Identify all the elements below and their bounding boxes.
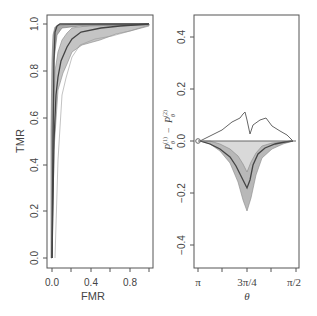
left-roc-plot: 0.0 0.2 0.4 0.6 0.8 1.0 TMR 0.0 0.4 0.8 …: [14, 15, 153, 302]
right-ytick-3: 0.2: [176, 82, 187, 96]
left-xtick-2: 0.8: [123, 277, 137, 288]
right-xtick-2: π/2: [287, 276, 301, 288]
svg-text:(2): (2): [162, 110, 169, 117]
svg-text:−: −: [163, 127, 174, 133]
left-xlabel: FMR: [81, 290, 105, 302]
roc-band-b: [52, 24, 149, 258]
right-ytick-2: 0.0: [176, 134, 187, 148]
left-ytick-2: 0.4: [29, 158, 40, 172]
left-xtick-1: 0.4: [84, 277, 98, 288]
right-xtick-1: 3π/4: [237, 276, 257, 288]
right-xtick-0: π: [195, 276, 201, 288]
left-xtick-0: 0.0: [45, 277, 59, 288]
svg-text:(1): (1): [162, 137, 169, 144]
left-ytick-4: 0.8: [29, 64, 40, 78]
right-ytick-0: −0.4: [176, 235, 187, 255]
left-y-axis: [43, 24, 47, 258]
svg-text:θ: θ: [170, 141, 176, 144]
right-xlabel: θ: [244, 290, 250, 302]
right-x-axis: [198, 268, 296, 272]
right-difference-plot: −0.4 −0.2 0.0 0.2 0.4 P (1) θ − P (2) θ …: [162, 15, 301, 302]
left-x-axis: [52, 268, 149, 272]
left-ytick-3: 0.6: [29, 111, 40, 125]
right-ytick-4: 0.4: [176, 30, 187, 44]
svg-text:θ: θ: [170, 114, 176, 117]
diff-upper-envelope: [200, 112, 293, 141]
right-y-axis: [190, 37, 194, 245]
figure: 0.0 0.2 0.4 0.6 0.8 1.0 TMR 0.0 0.4 0.8 …: [0, 0, 317, 316]
left-ytick-1: 0.2: [29, 204, 40, 218]
right-ytick-1: −0.2: [176, 183, 187, 203]
left-ytick-0: 0.0: [29, 251, 40, 265]
right-ylabel: P (1) θ − P (2) θ: [162, 110, 176, 151]
roc-outer-band: [55, 25, 149, 258]
left-ylabel: TMR: [14, 129, 26, 153]
left-ytick-5: 1.0: [29, 17, 40, 31]
